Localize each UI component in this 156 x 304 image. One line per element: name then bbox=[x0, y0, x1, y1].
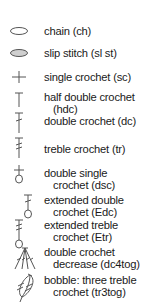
legend-label-line2: decrease (dc4tog) bbox=[44, 259, 140, 271]
double-single-crochet-icon bbox=[8, 164, 30, 188]
legend-label: double crochet decrease (dc4tog) bbox=[44, 247, 140, 270]
legend-label-line1: extended double bbox=[44, 194, 124, 206]
legend-label-line1: double crochet bbox=[44, 246, 115, 258]
legend-label-line1: extended treble bbox=[44, 219, 118, 231]
legend-label: single crochet (sc) bbox=[44, 72, 131, 84]
extended-double-crochet-icon bbox=[18, 194, 40, 218]
bobble-icon bbox=[12, 273, 38, 297]
legend-label-line1: half double crochet bbox=[44, 91, 135, 103]
legend-label-line2: crochet (Etr) bbox=[44, 232, 118, 244]
legend-label-line2: (hdc) bbox=[44, 104, 135, 116]
legend-label: bobble: three treble crochet (tr3tog) bbox=[44, 275, 136, 298]
legend-label: slip stitch (sl st) bbox=[44, 48, 117, 60]
legend-label: double crochet (dc) bbox=[44, 116, 136, 128]
legend-label: treble crochet (tr) bbox=[44, 144, 125, 156]
chain-oval-icon bbox=[8, 26, 30, 50]
legend-label: half double crochet (hdc) bbox=[44, 92, 135, 115]
legend-label: extended treble crochet (Etr) bbox=[44, 220, 118, 243]
legend-label: double single crochet (dsc) bbox=[44, 168, 115, 191]
legend-label-line1: double single bbox=[44, 167, 107, 179]
treble-crochet-icon bbox=[8, 137, 30, 161]
extended-treble-crochet-icon bbox=[8, 219, 30, 243]
legend-label-line2: crochet (tr3tog) bbox=[44, 287, 136, 299]
single-crochet-plus-icon bbox=[8, 70, 30, 94]
legend-label-line2: crochet (dsc) bbox=[44, 180, 115, 192]
double-crochet-icon bbox=[8, 112, 30, 136]
legend-label-line2: crochet (Edc) bbox=[44, 207, 124, 219]
legend-label: extended double crochet (Edc) bbox=[44, 195, 124, 218]
legend-label-line1: bobble: three treble bbox=[44, 274, 136, 286]
legend-label: chain (ch) bbox=[44, 26, 91, 38]
dc4tog-fan-icon bbox=[12, 247, 38, 271]
slip-stitch-filled-oval-icon bbox=[8, 48, 30, 72]
